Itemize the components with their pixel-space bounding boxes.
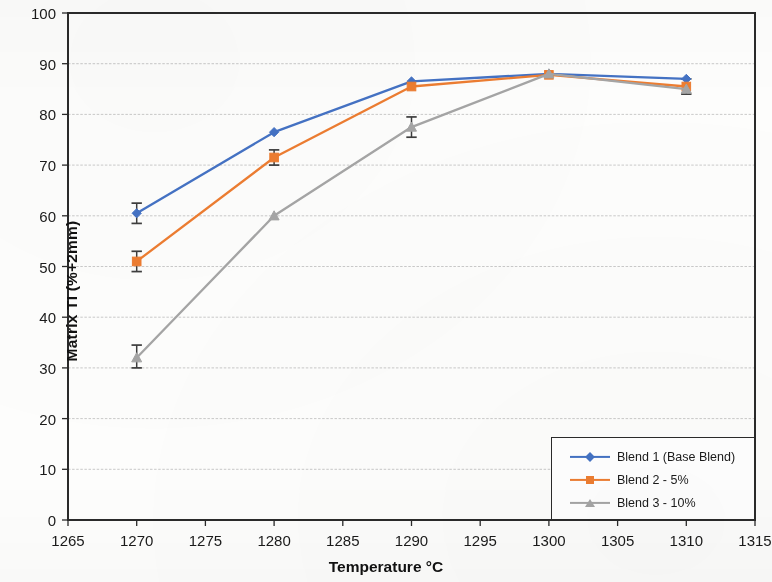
x-tick-label: 1315 [738, 532, 771, 549]
x-tick-label: 1305 [601, 532, 634, 549]
square-marker [132, 257, 141, 266]
y-tick-label: 20 [0, 410, 56, 427]
legend-swatch-square-icon [570, 473, 610, 487]
x-tick-label: 1290 [395, 532, 428, 549]
x-tick-label: 1270 [120, 532, 153, 549]
y-tick-label: 60 [0, 207, 56, 224]
legend-triangle-icon [585, 499, 595, 507]
x-tick-label: 1275 [189, 532, 222, 549]
y-tick-label: 70 [0, 157, 56, 174]
legend: Blend 1 (Base Blend)Blend 2 - 5%Blend 3 … [551, 437, 755, 520]
y-tick-label: 80 [0, 106, 56, 123]
square-marker [407, 82, 416, 91]
y-tick-label: 100 [0, 5, 56, 22]
series-line [137, 75, 687, 262]
series-3 [132, 69, 692, 362]
square-marker [270, 153, 279, 162]
error-bars-2 [132, 79, 692, 272]
data-series-group [132, 69, 692, 368]
chart-figure: Matrix TI (%+2mm) 0102030405060708090100… [0, 0, 772, 582]
x-tick-label: 1300 [532, 532, 565, 549]
y-tick-label: 0 [0, 512, 56, 529]
x-tick-label: 1265 [51, 532, 84, 549]
y-tick-label: 50 [0, 258, 56, 275]
legend-diamond-icon [585, 452, 595, 462]
series-2 [132, 71, 690, 266]
x-tick-label: 1285 [326, 532, 359, 549]
y-axis-title: Matrix TI (%+2mm) [63, 221, 81, 362]
legend-swatch-triangle-icon [570, 496, 610, 510]
legend-square-icon [586, 476, 594, 484]
x-tick-label: 1295 [464, 532, 497, 549]
series-line [137, 74, 687, 213]
y-tick-label: 90 [0, 55, 56, 72]
y-tick-label: 40 [0, 309, 56, 326]
legend-label: Blend 2 - 5% [617, 473, 689, 487]
legend-swatch-diamond-icon [570, 450, 610, 464]
x-tick-label: 1280 [257, 532, 290, 549]
y-tick-label: 10 [0, 461, 56, 478]
legend-label: Blend 3 - 10% [617, 496, 696, 510]
legend-entry-2[interactable]: Blend 2 - 5% [552, 468, 754, 491]
legend-entry-1[interactable]: Blend 1 (Base Blend) [552, 445, 754, 468]
series-1 [132, 69, 691, 218]
x-tick-label: 1310 [670, 532, 703, 549]
y-tick-label: 30 [0, 359, 56, 376]
x-axis-title: Temperature °C [0, 558, 772, 576]
legend-entry-3[interactable]: Blend 3 - 10% [552, 491, 754, 514]
legend-label: Blend 1 (Base Blend) [617, 450, 735, 464]
